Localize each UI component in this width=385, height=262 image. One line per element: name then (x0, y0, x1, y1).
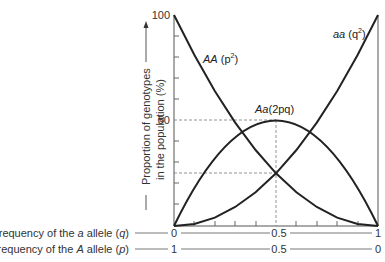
x-axis-q-title: Frequency of the a allele (q) (0, 227, 129, 239)
arrow-up-icon (144, 21, 149, 28)
label-Aa-2pq: Aa(2pq) (254, 103, 294, 115)
label-aa-q2: aa (q2) (333, 27, 366, 40)
p-tick-1: 1 (171, 243, 177, 255)
label-AA-p2: AA (p2) (202, 52, 238, 65)
p-tick-0-5: 0.5 (271, 243, 286, 255)
p-tick-0: 0 (375, 243, 381, 255)
dashed-guides (174, 120, 276, 226)
q-tick-1: 1 (375, 227, 381, 239)
y-axis-title-line1: Proportion of genotypes (140, 68, 152, 185)
hardy-weinberg-chart: 100 50 aa (q2) AA (p2) Aa(2pq) Proportio… (0, 0, 385, 262)
y-axis-title-line2: in the population (%) (154, 79, 166, 180)
y-tick-label-100: 100 (152, 9, 170, 21)
x-axis-p-title: Frequency of the A allele (p) (0, 243, 129, 255)
q-tick-0: 0 (171, 227, 177, 239)
y-axis-title: Proportion of genotypes in the populatio… (140, 68, 166, 185)
q-tick-0-5: 0.5 (271, 227, 286, 239)
